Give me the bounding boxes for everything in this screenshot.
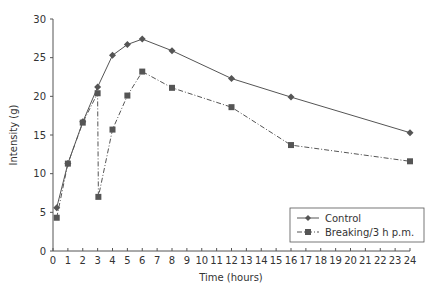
square-marker-icon [95,90,101,96]
line-chart: 0123456789101112131415161718192021222324… [0,0,429,299]
x-tick-label: 6 [139,255,145,266]
legend-control-label: Control [325,213,361,224]
y-tick-label: 30 [33,14,46,25]
y-tick-label: 10 [33,168,46,179]
series-breaking [54,69,413,221]
x-tick-label: 0 [50,255,56,266]
series-control [53,36,413,212]
legend-breaking-label: Breaking/3 h p.m. [325,227,414,238]
square-marker-icon [229,104,235,110]
diamond-marker-icon [139,36,146,43]
x-tick-label: 14 [255,255,268,266]
square-marker-icon [288,142,294,148]
square-marker-icon [407,158,413,164]
diamond-marker-icon [288,94,295,101]
x-tick-label: 16 [285,255,298,266]
x-tick-label: 3 [94,255,100,266]
x-tick-label: 11 [210,255,223,266]
y-tick-label: 0 [40,246,46,257]
x-tick-label: 4 [109,255,115,266]
diamond-marker-icon [109,52,116,59]
x-tick-label: 12 [225,255,238,266]
diamond-marker-icon [124,41,131,48]
x-tick-label: 20 [344,255,357,266]
square-marker-icon [124,93,130,99]
y-axis-title: Intensity (g) [8,104,19,165]
x-tick-label: 19 [329,255,342,266]
square-marker-icon [110,127,116,133]
series-layer [53,36,413,221]
x-tick-label: 18 [314,255,327,266]
square-marker-icon [169,85,175,91]
square-marker-icon [54,215,60,221]
diamond-marker-icon [407,129,414,136]
x-tick-label: 1 [65,255,71,266]
series-line [57,39,410,208]
x-tick-label: 17 [300,255,313,266]
diamond-marker-icon [169,47,176,54]
x-tick-label: 22 [374,255,387,266]
x-tick-label: 8 [169,255,175,266]
y-tick-label: 15 [33,130,46,141]
x-tick-label: 9 [184,255,190,266]
square-marker-icon [80,120,86,126]
x-tick-label: 21 [359,255,372,266]
legend: Control Breaking/3 h p.m. [290,208,424,242]
x-tick-label: 24 [404,255,417,266]
y-tick-label: 5 [40,207,46,218]
x-tick-label: 15 [270,255,283,266]
x-tick-label: 10 [195,255,208,266]
diamond-marker-icon [94,84,101,91]
x-tick-label: 7 [154,255,160,266]
square-marker-icon [139,69,145,75]
y-tick-label: 20 [33,91,46,102]
x-tick-label: 5 [124,255,130,266]
square-marker-icon [65,161,71,167]
x-axis-title: Time (hours) [198,272,263,283]
diamond-marker-icon [228,75,235,82]
y-tick-label: 25 [33,52,46,63]
series-line [57,72,410,218]
x-tick-label: 23 [389,255,402,266]
x-tick-label: 2 [80,255,86,266]
legend-breaking-square-icon [305,229,311,235]
square-marker-icon [95,194,101,200]
x-tick-label: 13 [240,255,253,266]
